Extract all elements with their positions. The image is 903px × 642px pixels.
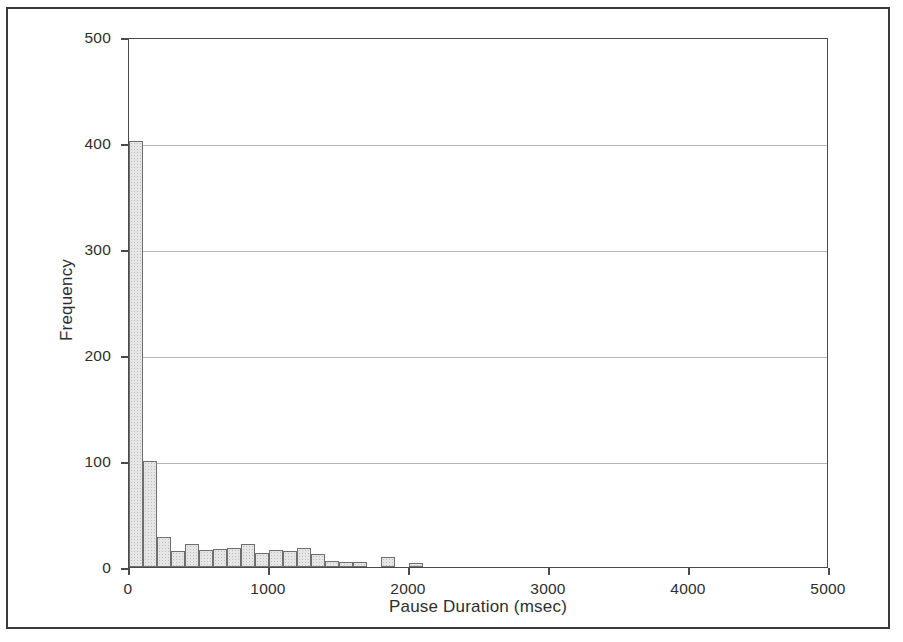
histogram-bar bbox=[185, 544, 199, 567]
histogram-bar bbox=[339, 562, 353, 567]
histogram-bar bbox=[311, 554, 325, 567]
y-tick-label-500: 500 bbox=[33, 29, 111, 47]
x-tick-label-5000: 5000 bbox=[778, 580, 878, 598]
x-tick-mark-1000 bbox=[268, 568, 270, 575]
histogram-bar bbox=[283, 551, 297, 567]
x-tick-mark-3000 bbox=[548, 568, 550, 575]
x-tick-mark-5000 bbox=[828, 568, 830, 575]
histogram-bar bbox=[143, 461, 157, 567]
x-tick-label-3000: 3000 bbox=[498, 580, 598, 598]
histogram-bars bbox=[129, 39, 827, 567]
y-tick-mark-200 bbox=[121, 356, 128, 358]
y-tick-label-0: 0 bbox=[33, 559, 111, 577]
histogram-bar bbox=[381, 557, 395, 567]
histogram-bar bbox=[213, 549, 227, 567]
y-tick-mark-0 bbox=[121, 568, 128, 570]
histogram-bar bbox=[241, 544, 255, 567]
y-tick-mark-400 bbox=[121, 144, 128, 146]
x-tick-label-2000: 2000 bbox=[358, 580, 458, 598]
histogram-bar bbox=[227, 548, 241, 567]
histogram-bar bbox=[409, 563, 423, 567]
x-tick-mark-4000 bbox=[688, 568, 690, 575]
y-tick-mark-500 bbox=[121, 38, 128, 40]
x-tick-mark-2000 bbox=[408, 568, 410, 575]
y-tick-label-400: 400 bbox=[33, 135, 111, 153]
histogram-bar bbox=[199, 550, 213, 567]
x-tick-label-0: 0 bbox=[78, 580, 178, 598]
x-axis-title: Pause Duration (msec) bbox=[128, 597, 828, 617]
x-tick-label-4000: 4000 bbox=[638, 580, 738, 598]
histogram-bar bbox=[157, 537, 171, 567]
y-tick-mark-300 bbox=[121, 250, 128, 252]
histogram-bar bbox=[325, 561, 339, 567]
histogram-figure: 0100200300400500010002000300040005000 Pa… bbox=[0, 0, 903, 642]
histogram-bar bbox=[353, 562, 367, 567]
histogram-bar bbox=[171, 551, 185, 567]
y-tick-mark-100 bbox=[121, 462, 128, 464]
x-tick-label-1000: 1000 bbox=[218, 580, 318, 598]
plot-area bbox=[128, 38, 828, 568]
histogram-bar bbox=[129, 141, 143, 567]
histogram-bar bbox=[297, 548, 311, 567]
histogram-bar bbox=[269, 550, 283, 567]
y-tick-label-100: 100 bbox=[33, 453, 111, 471]
y-axis-title: Frequency bbox=[57, 220, 77, 380]
histogram-bar bbox=[255, 553, 269, 567]
x-tick-mark-0 bbox=[128, 568, 130, 575]
